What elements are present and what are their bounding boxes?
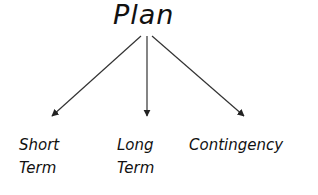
arrow-to-contingency (152, 36, 244, 116)
child-node-contingency: Contingency (189, 134, 283, 157)
arrow-to-short-term (52, 36, 141, 116)
short-term-line2: Term (19, 157, 59, 180)
long-term-line1: Long (117, 134, 154, 157)
long-term-line2: Term (117, 157, 154, 180)
contingency-line1: Contingency (189, 134, 283, 157)
child-node-short-term: Short Term (19, 134, 59, 180)
child-node-long-term: Long Term (117, 134, 154, 180)
short-term-line1: Short (19, 134, 59, 157)
plan-hierarchy-diagram: Plan Short Term Long Term Contingency (0, 0, 318, 195)
